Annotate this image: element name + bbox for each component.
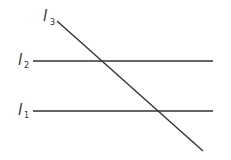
- label-l3: l 3: [43, 7, 55, 27]
- label-l2: l 2: [18, 51, 29, 70]
- label-l1: l 1: [18, 101, 29, 120]
- diagram-canvas: l 3 l 2 l 1: [0, 0, 231, 160]
- label-l3-main: l: [43, 7, 48, 25]
- label-l2-subscript: 2: [24, 61, 29, 70]
- label-l1-main: l: [18, 101, 23, 119]
- label-l2-main: l: [18, 51, 23, 69]
- label-l1-subscript: 1: [24, 111, 29, 120]
- line-l3-transversal: [57, 21, 203, 151]
- label-l3-subscript: 3: [50, 18, 55, 27]
